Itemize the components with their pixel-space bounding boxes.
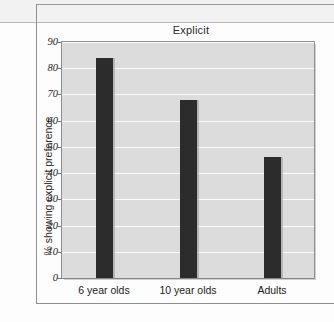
chart-title: Explicit bbox=[60, 24, 322, 36]
y-axis-tick-label: 20 bbox=[24, 221, 58, 231]
y-axis-tick-label: 40 bbox=[24, 168, 58, 178]
y-axis-tick-label: 0 bbox=[24, 273, 58, 283]
x-axis-tick-label: Adults bbox=[257, 284, 286, 296]
y-axis-tick-label: 80 bbox=[24, 63, 58, 73]
y-axis-tick-labels: 0102030405060708090 bbox=[20, 42, 58, 278]
y-axis-tick-label: 30 bbox=[24, 194, 58, 204]
x-axis-tick-label: 10 year olds bbox=[159, 284, 216, 296]
y-axis-tick-label: 90 bbox=[24, 37, 58, 47]
gridline bbox=[62, 42, 314, 43]
plot-border-right bbox=[314, 41, 315, 279]
y-axis-tick-label: 70 bbox=[24, 89, 58, 99]
x-axis-tick-label: 6 year olds bbox=[78, 284, 129, 296]
bar bbox=[96, 58, 113, 278]
y-axis-tick-label: 10 bbox=[24, 247, 58, 257]
bar-chart: Explicit % showing explicit preference 0… bbox=[0, 0, 334, 322]
bar bbox=[180, 100, 197, 278]
plot-axis-baseline bbox=[61, 278, 314, 279]
y-axis-tick-label: 60 bbox=[24, 116, 58, 126]
scanned-page: Explicit % showing explicit preference 0… bbox=[0, 0, 334, 322]
plot-area bbox=[62, 42, 314, 278]
bar bbox=[264, 157, 281, 278]
y-axis-tick-label: 50 bbox=[24, 142, 58, 152]
